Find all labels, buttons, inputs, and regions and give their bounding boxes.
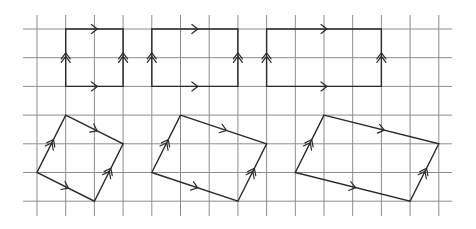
parallelogram-large	[295, 115, 439, 201]
grid-diagram	[0, 0, 476, 229]
parallelogram-outline	[295, 115, 439, 201]
parallelogram-small	[37, 115, 123, 201]
parallelogram-outline	[37, 115, 123, 201]
